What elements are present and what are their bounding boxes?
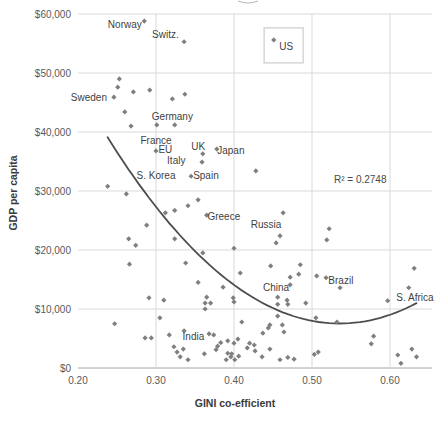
data-point[interactable] — [236, 354, 241, 359]
data-point[interactable] — [253, 168, 258, 173]
data-point[interactable] — [247, 341, 252, 346]
country-label-brazil[interactable]: Brazil — [328, 275, 353, 286]
data-point[interactable] — [170, 96, 175, 101]
country-label-switz[interactable]: Switz. — [152, 29, 179, 40]
data-point[interactable] — [267, 347, 272, 352]
data-point[interactable] — [235, 336, 240, 341]
data-point[interactable] — [314, 273, 319, 278]
data-point[interactable] — [128, 124, 133, 129]
data-point[interactable] — [163, 210, 168, 215]
data-point[interactable] — [154, 122, 159, 127]
data-point[interactable] — [275, 313, 280, 318]
data-point[interactable] — [105, 184, 110, 189]
data-point[interactable] — [303, 301, 308, 306]
data-point[interactable] — [122, 109, 127, 114]
data-point[interactable] — [183, 260, 188, 265]
country-label-russia[interactable]: Russia — [251, 219, 282, 230]
data-point[interactable] — [126, 236, 131, 241]
data-point[interactable] — [385, 298, 390, 303]
data-point[interactable] — [327, 226, 332, 231]
data-point[interactable] — [196, 280, 201, 285]
data-point[interactable] — [284, 298, 289, 303]
data-point[interactable] — [182, 92, 187, 97]
data-point[interactable] — [206, 331, 211, 336]
data-point[interactable] — [181, 347, 186, 352]
data-point[interactable] — [238, 270, 243, 275]
data-point[interactable] — [172, 122, 177, 127]
country-label-uk[interactable]: UK — [191, 141, 205, 152]
data-point[interactable] — [369, 341, 374, 346]
data-point[interactable] — [414, 354, 419, 359]
country-label-germany[interactable]: Germany — [152, 111, 193, 122]
data-point[interactable] — [239, 319, 244, 324]
data-point[interactable] — [131, 89, 136, 94]
us-label-box[interactable]: US — [264, 28, 303, 63]
us-label-text[interactable]: US — [279, 41, 293, 52]
data-point[interactable] — [285, 355, 290, 360]
data-point[interactable] — [157, 315, 162, 320]
country-label-india[interactable]: India — [183, 331, 205, 342]
data-point[interactable] — [260, 331, 265, 336]
data-point[interactable] — [245, 345, 250, 350]
data-point[interactable] — [224, 357, 229, 362]
data-point[interactable] — [203, 301, 208, 306]
data-point[interactable] — [231, 295, 236, 300]
data-point[interactable] — [174, 349, 179, 354]
country-label-japan[interactable]: Japan — [217, 145, 244, 156]
data-point[interactable] — [324, 237, 329, 242]
data-point[interactable] — [185, 203, 190, 208]
data-point[interactable] — [220, 285, 225, 290]
data-point[interactable] — [133, 243, 138, 248]
trendline[interactable] — [108, 137, 417, 323]
data-point[interactable] — [127, 262, 132, 267]
data-point[interactable] — [199, 159, 204, 164]
data-point[interactable] — [196, 197, 201, 202]
country-label-s-korea[interactable]: S. Korea — [137, 170, 176, 181]
data-point[interactable] — [232, 357, 237, 362]
country-label-spain[interactable]: Spain — [193, 170, 219, 181]
data-point[interactable] — [172, 236, 177, 241]
data-point[interactable] — [200, 151, 205, 156]
data-point[interactable] — [146, 295, 151, 300]
data-point[interactable] — [280, 322, 285, 327]
data-point[interactable] — [409, 347, 414, 352]
data-point[interactable] — [313, 315, 318, 320]
data-point[interactable] — [275, 295, 280, 300]
data-point[interactable] — [200, 250, 205, 255]
data-point[interactable] — [406, 285, 411, 290]
data-point[interactable] — [142, 335, 147, 340]
data-point[interactable] — [218, 340, 223, 345]
data-point[interactable] — [268, 263, 273, 268]
data-point[interactable] — [202, 351, 207, 356]
data-point[interactable] — [371, 334, 376, 339]
data-point[interactable] — [259, 354, 264, 359]
data-point[interactable] — [285, 302, 290, 307]
data-point[interactable] — [112, 321, 117, 326]
country-label-china[interactable]: China — [263, 282, 290, 293]
data-point[interactable] — [296, 272, 301, 277]
data-point[interactable] — [252, 342, 257, 347]
data-point[interactable] — [277, 233, 282, 238]
data-point[interactable] — [398, 361, 403, 366]
data-point[interactable] — [281, 329, 286, 334]
country-label-norway[interactable]: Norway — [108, 19, 142, 30]
country-label-s-africa[interactable]: S. Africa — [396, 292, 434, 303]
data-point[interactable] — [204, 295, 209, 300]
data-point[interactable] — [288, 275, 293, 280]
data-point[interactable] — [172, 208, 177, 213]
data-point[interactable] — [208, 301, 213, 306]
data-point[interactable] — [281, 210, 286, 215]
data-point[interactable] — [412, 266, 417, 271]
data-point[interactable] — [111, 95, 116, 100]
data-point[interactable] — [185, 357, 190, 362]
data-point[interactable] — [316, 349, 321, 354]
country-label-greece[interactable]: Greece — [207, 211, 240, 222]
data-point[interactable] — [149, 335, 154, 340]
data-point[interactable] — [337, 285, 342, 290]
data-point[interactable] — [231, 299, 236, 304]
data-point[interactable] — [144, 223, 149, 228]
country-label-sweden[interactable]: Sweden — [71, 92, 107, 103]
data-point[interactable] — [275, 302, 280, 307]
data-point[interactable] — [203, 306, 208, 311]
data-point[interactable] — [178, 354, 183, 359]
